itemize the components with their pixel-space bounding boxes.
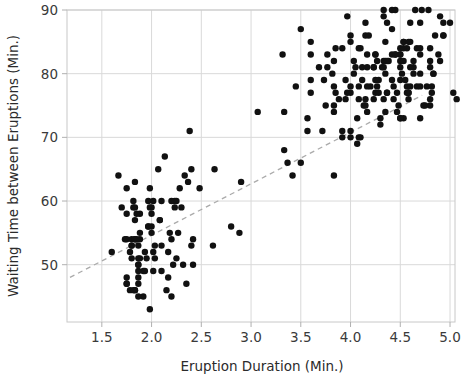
data-point[interactable]: [119, 204, 125, 210]
data-point[interactable]: [405, 39, 411, 45]
data-point[interactable]: [142, 249, 148, 255]
data-point[interactable]: [289, 172, 295, 178]
data-point[interactable]: [298, 160, 304, 166]
data-point[interactable]: [130, 204, 136, 210]
data-point[interactable]: [331, 109, 337, 115]
data-point[interactable]: [332, 90, 338, 96]
data-point[interactable]: [210, 242, 216, 248]
data-point[interactable]: [425, 7, 431, 13]
data-point[interactable]: [177, 185, 183, 191]
data-point[interactable]: [429, 90, 435, 96]
data-point[interactable]: [132, 179, 138, 185]
data-point[interactable]: [371, 96, 377, 102]
data-point[interactable]: [137, 230, 143, 236]
data-point[interactable]: [389, 7, 395, 13]
data-point[interactable]: [390, 83, 396, 89]
data-point[interactable]: [384, 20, 390, 26]
data-point[interactable]: [211, 166, 217, 172]
data-point[interactable]: [440, 32, 446, 38]
data-point[interactable]: [123, 274, 129, 280]
data-point[interactable]: [135, 242, 141, 248]
data-point[interactable]: [427, 45, 433, 51]
data-point[interactable]: [162, 153, 168, 159]
data-point[interactable]: [332, 45, 338, 51]
data-point[interactable]: [397, 115, 403, 121]
data-point[interactable]: [178, 204, 184, 210]
data-point[interactable]: [308, 77, 314, 83]
data-point[interactable]: [142, 268, 148, 274]
data-point[interactable]: [362, 102, 368, 108]
data-point[interactable]: [397, 64, 403, 70]
data-point[interactable]: [148, 211, 154, 217]
data-point[interactable]: [394, 109, 400, 115]
data-point[interactable]: [375, 77, 381, 83]
data-point[interactable]: [147, 185, 153, 191]
data-point[interactable]: [147, 204, 153, 210]
data-point[interactable]: [168, 293, 174, 299]
data-point[interactable]: [336, 96, 342, 102]
data-point[interactable]: [183, 281, 189, 287]
data-point[interactable]: [371, 64, 377, 70]
data-point[interactable]: [389, 26, 395, 32]
data-point[interactable]: [135, 274, 141, 280]
data-point[interactable]: [180, 261, 186, 267]
data-point[interactable]: [304, 115, 310, 121]
data-point[interactable]: [430, 70, 436, 76]
data-point[interactable]: [364, 109, 370, 115]
data-point[interactable]: [410, 58, 416, 64]
data-point[interactable]: [359, 77, 365, 83]
data-point[interactable]: [308, 39, 314, 45]
data-point[interactable]: [329, 70, 335, 76]
data-point[interactable]: [450, 90, 456, 96]
data-point[interactable]: [407, 83, 413, 89]
data-point[interactable]: [377, 115, 383, 121]
data-point[interactable]: [347, 134, 353, 140]
data-point[interactable]: [130, 198, 136, 204]
data-point[interactable]: [188, 166, 194, 172]
data-point[interactable]: [362, 20, 368, 26]
data-point[interactable]: [331, 102, 337, 108]
data-point[interactable]: [453, 96, 459, 102]
data-point[interactable]: [130, 287, 136, 293]
data-point[interactable]: [364, 83, 370, 89]
data-point[interactable]: [123, 211, 129, 217]
data-point[interactable]: [228, 223, 234, 229]
data-point[interactable]: [165, 274, 171, 280]
data-point[interactable]: [150, 198, 156, 204]
data-point[interactable]: [236, 230, 242, 236]
data-point[interactable]: [279, 51, 285, 57]
data-point[interactable]: [158, 198, 164, 204]
data-point[interactable]: [432, 32, 438, 38]
data-point[interactable]: [402, 77, 408, 83]
data-point[interactable]: [132, 217, 138, 223]
data-point[interactable]: [384, 58, 390, 64]
data-point[interactable]: [186, 128, 192, 134]
data-point[interactable]: [374, 83, 380, 89]
data-point[interactable]: [405, 90, 411, 96]
data-point[interactable]: [331, 58, 337, 64]
data-point[interactable]: [356, 134, 362, 140]
data-point[interactable]: [188, 242, 194, 248]
data-point[interactable]: [356, 83, 362, 89]
data-point[interactable]: [437, 58, 443, 64]
data-point[interactable]: [407, 64, 413, 70]
data-point[interactable]: [135, 293, 141, 299]
data-point[interactable]: [422, 102, 428, 108]
data-point[interactable]: [347, 83, 353, 89]
data-point[interactable]: [344, 13, 350, 19]
data-point[interactable]: [304, 128, 310, 134]
data-point[interactable]: [417, 115, 423, 121]
data-point[interactable]: [173, 255, 179, 261]
data-point[interactable]: [128, 242, 134, 248]
data-point[interactable]: [407, 20, 413, 26]
data-point[interactable]: [148, 223, 154, 229]
data-point[interactable]: [380, 64, 386, 70]
data-point[interactable]: [308, 90, 314, 96]
data-point[interactable]: [400, 45, 406, 51]
data-point[interactable]: [284, 160, 290, 166]
data-point[interactable]: [158, 268, 164, 274]
data-point[interactable]: [172, 204, 178, 210]
data-point[interactable]: [167, 230, 173, 236]
data-point[interactable]: [135, 281, 141, 287]
data-point[interactable]: [354, 115, 360, 121]
